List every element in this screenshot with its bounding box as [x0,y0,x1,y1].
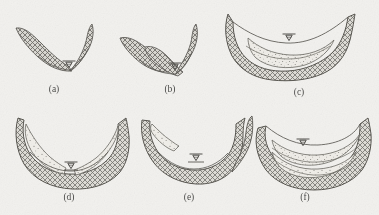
panel-b-caption: (b) [164,84,175,95]
panel-d-caption: (d) [63,192,74,203]
panel-f-caption: (f) [300,192,310,203]
panel-c-caption: (c) [294,87,305,98]
panel-e-caption: (e) [184,192,195,203]
figure-canvas: (a) (b) (c) (d) [0,0,379,215]
panel-a-caption: (a) [49,84,60,95]
